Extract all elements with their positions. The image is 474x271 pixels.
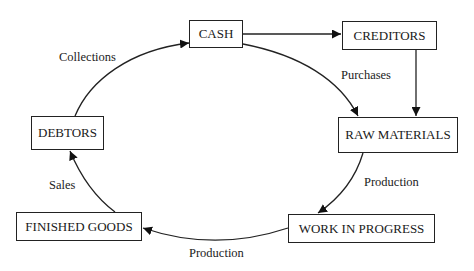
node-creditors: CREDITORS xyxy=(342,21,437,50)
node-cash-label: CASH xyxy=(199,26,234,42)
node-raw-materials: RAW MATERIALS xyxy=(338,117,458,153)
node-finished-goods-label: FINISHED GOODS xyxy=(25,219,132,235)
node-work-in-progress: WORK IN PROGRESS xyxy=(288,214,435,243)
edge-finished-goods-debtors xyxy=(70,151,115,212)
node-debtors-label: DEBTORS xyxy=(38,125,97,141)
node-raw-materials-label: RAW MATERIALS xyxy=(345,127,450,143)
node-wip-label: WORK IN PROGRESS xyxy=(299,221,425,237)
edge-label-production-wip-fg: Production xyxy=(189,246,244,261)
edge-raw-materials-wip xyxy=(318,153,363,213)
edge-label-sales: Sales xyxy=(49,178,75,193)
node-debtors: DEBTORS xyxy=(31,116,104,150)
node-finished-goods: FINISHED GOODS xyxy=(16,212,142,241)
edge-label-purchases: Purchases xyxy=(341,68,391,83)
edge-label-production-rm-wip: Production xyxy=(364,175,419,190)
edge-label-collections: Collections xyxy=(59,50,116,65)
node-creditors-label: CREDITORS xyxy=(354,28,426,44)
edge-wip-finished-goods xyxy=(143,228,288,240)
node-cash: CASH xyxy=(189,20,243,48)
